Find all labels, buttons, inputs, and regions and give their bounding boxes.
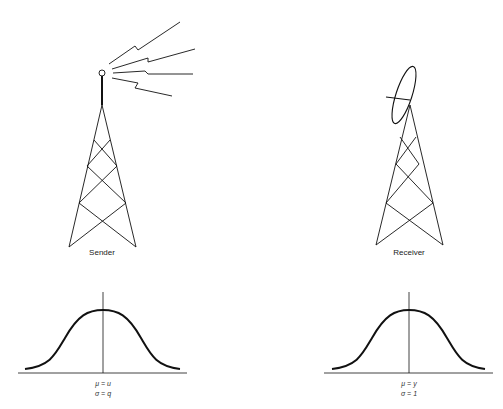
signal-waves-icon [109, 22, 195, 96]
sender-tower [69, 22, 195, 247]
receiver-label: Receiver [369, 248, 449, 257]
receiver-tower [376, 64, 443, 245]
antenna-tip-icon [99, 70, 105, 76]
sender-gaussian-curve [18, 292, 187, 373]
receiver-mu: μ = y [379, 379, 439, 388]
sender-label: Sender [62, 248, 142, 257]
receiver-gaussian-curve [324, 292, 493, 373]
satellite-dish-icon [386, 64, 421, 126]
sender-mu: μ = u [73, 379, 133, 388]
diagram-canvas [0, 0, 503, 409]
sender-sigma: σ = q [73, 389, 133, 398]
receiver-sigma: σ = 1 [379, 389, 439, 398]
